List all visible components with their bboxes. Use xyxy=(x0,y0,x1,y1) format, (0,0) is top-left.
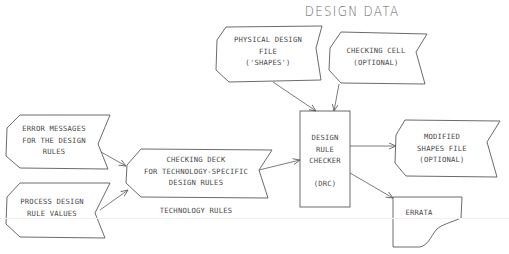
errata-label: ERRATA xyxy=(405,207,432,219)
checking-deck-label: CHECKING DECK FOR TECHNOLOGY-SPECIFIC DE… xyxy=(144,154,248,189)
diagram-title: DESIGN DATA xyxy=(305,3,400,19)
checking-cell-label: CHECKING CELL (OPTIONAL) xyxy=(347,45,406,68)
errata-shape xyxy=(393,197,462,247)
arrow-physical-to-drc xyxy=(273,82,316,111)
physical-design-file-label: PHYSICAL DESIGN FILE ('SHAPES') xyxy=(234,34,302,69)
arrow-drc-to-errata xyxy=(350,173,393,198)
technology-rules-label: TECHNOLOGY RULES xyxy=(160,205,232,217)
arrow-checking-cell-to-drc xyxy=(334,84,339,111)
modified-shapes-file-label: MODIFIED SHAPES FILE (OPTIONAL) xyxy=(417,131,467,166)
error-messages-label: ERROR MESSAGES FOR THE DESIGN RULES xyxy=(22,123,85,158)
design-rule-checker-label: DESIGN RULE CHECKER (DRC) xyxy=(309,132,341,190)
process-design-rule-values-label: PROCESS DESIGN RULE VALUES xyxy=(20,196,83,219)
arrow-deck-to-drc xyxy=(259,160,300,170)
